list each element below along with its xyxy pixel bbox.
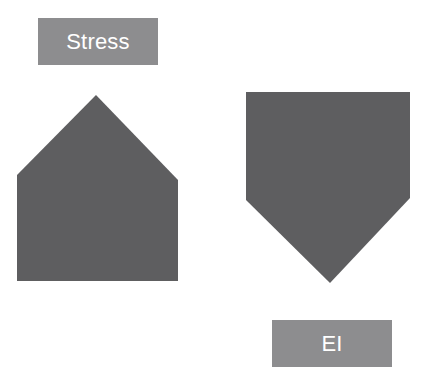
stress-label-text: Stress [66,31,130,53]
ei-label-text: EI [321,333,342,355]
ei-pentagon-polygon [246,92,410,283]
ei-label-box[interactable]: EI [272,320,392,367]
diagram-canvas: Stress EI [0,0,423,380]
stress-label-box[interactable]: Stress [38,18,158,65]
